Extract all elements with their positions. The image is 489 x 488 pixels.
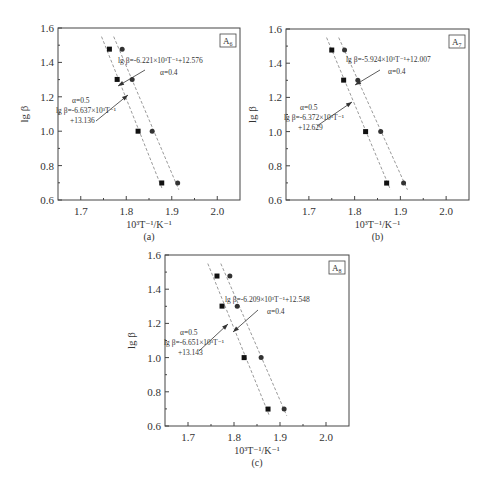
sample-subscript: 8 (339, 268, 342, 274)
data-point-square (220, 304, 225, 309)
annotation-line: α=0.5 (180, 328, 198, 337)
x-axis-label: 10³T⁻¹/K⁻¹ (234, 445, 280, 456)
data-point-circle (401, 181, 406, 186)
y-tick-label: 1.2 (147, 317, 161, 329)
panel-caption: (b) (372, 231, 384, 243)
x-tick-label: 1.8 (227, 431, 241, 443)
y-tick-label: 1.4 (147, 283, 161, 295)
y-tick-label: 1.4 (40, 56, 54, 68)
data-point-circle (342, 48, 347, 53)
y-tick-label: 0.6 (268, 194, 282, 206)
data-point-square (115, 77, 120, 82)
y-tick-label: 1.2 (40, 91, 54, 103)
y-tick-label: 1.6 (40, 22, 54, 34)
y-axis-label: lg β (18, 105, 30, 122)
data-point-square (341, 78, 346, 83)
data-point-circle (150, 129, 155, 134)
annotation-line: +13.143 (178, 348, 203, 357)
data-point-square (107, 47, 112, 52)
x-axis-label: 10³T⁻¹/K⁻¹ (355, 219, 401, 230)
annotation-line: lg β=-6.637×10³T⁻¹ (56, 106, 116, 115)
data-point-circle (282, 407, 287, 412)
sample-subscript: 6 (230, 41, 233, 47)
x-axis-label: 10³T⁻¹/K⁻¹ (126, 219, 172, 230)
y-tick-label: 0.8 (40, 160, 54, 172)
x-tick-label: 1.7 (74, 205, 88, 217)
sample-subscript: 7 (459, 42, 462, 48)
y-tick-label: 0.8 (268, 160, 282, 172)
panel-caption: (a) (143, 231, 154, 243)
data-point-circle (227, 274, 232, 279)
annotation-line: +13.136 (70, 116, 95, 125)
x-tick-label: 2.0 (319, 431, 333, 443)
data-point-square (159, 180, 164, 185)
annotation-line: α=0.4 (267, 307, 285, 316)
annotation-line: lg β=-6.221×10³T⁻¹+12.576 (118, 56, 203, 65)
y-tick-label: 1.0 (268, 126, 282, 138)
data-point-circle (235, 304, 240, 309)
annotation-line: lg β=-6.372×10³T⁻¹ (284, 113, 344, 122)
y-tick-label: 0.6 (40, 194, 54, 206)
data-point-circle (120, 47, 125, 52)
data-point-square (363, 129, 368, 134)
x-tick-label: 1.9 (273, 431, 287, 443)
x-tick-label: 2.0 (210, 205, 224, 217)
x-tick-label: 1.7 (181, 431, 195, 443)
x-tick-label: 1.9 (394, 205, 408, 217)
annotation-line: lg β=-6.651×10³T⁻¹ (164, 338, 224, 347)
annotation-alpha-0-4: lg β=-5.924×10³T⁻¹+12.007α=0.4 (346, 55, 431, 76)
chart-panel-b: 0.60.81.01.21.41.61.71.81.92.010³T⁻¹/K⁻¹… (246, 23, 469, 243)
y-tick-label: 1.6 (147, 249, 161, 261)
y-tick-label: 1.0 (40, 125, 54, 137)
x-tick-label: 1.8 (348, 205, 362, 217)
data-point-circle (378, 129, 383, 134)
annotation-alpha-0-4: lg β=-6.221×10³T⁻¹+12.576α=0.4 (118, 56, 203, 77)
x-tick-label: 1.7 (302, 205, 316, 217)
x-tick-label: 2.0 (439, 205, 453, 217)
series-alpha-0-4 (221, 264, 287, 416)
arrow-head-icon (346, 102, 352, 107)
y-tick-label: 1.6 (268, 23, 282, 35)
annotation-line: lg β=-6.209×10³T⁻¹+12.548 (225, 295, 310, 304)
chart-panel-c: 0.60.81.01.21.41.61.71.81.92.010³T⁻¹/K⁻¹… (125, 249, 349, 469)
x-tick-label: 1.9 (165, 205, 179, 217)
chart-panel-a: 0.60.81.01.21.41.61.71.81.92.010³T⁻¹/K⁻¹… (18, 22, 240, 243)
data-point-square (329, 48, 334, 53)
data-point-square (384, 181, 389, 186)
data-point-circle (175, 180, 180, 185)
annotation-line: α=0.4 (160, 68, 178, 77)
y-tick-label: 1.0 (147, 352, 161, 364)
y-tick-label: 0.8 (147, 386, 161, 398)
y-tick-label: 1.4 (268, 57, 282, 69)
fit-line (221, 264, 287, 416)
panel-caption: (c) (251, 457, 262, 469)
annotation-line: α=0.5 (72, 96, 90, 105)
x-tick-label: 1.8 (119, 205, 133, 217)
data-point-circle (259, 355, 264, 360)
annotation-line: α=0.4 (388, 67, 406, 76)
y-axis-label: lg β (246, 106, 258, 123)
y-tick-label: 1.2 (268, 91, 282, 103)
annotation-alpha-0-5: α=0.5lg β=-6.637×10³T⁻¹+13.136 (56, 96, 116, 125)
data-point-square (266, 407, 271, 412)
y-axis-label: lg β (125, 332, 137, 349)
annotation-line: α=0.5 (300, 103, 318, 112)
figure-canvas: 0.60.81.01.21.41.61.71.81.92.010³T⁻¹/K⁻¹… (0, 0, 489, 488)
data-point-square (214, 274, 219, 279)
annotation-line: lg β=-5.924×10³T⁻¹+12.007 (346, 55, 431, 64)
data-point-square (242, 355, 247, 360)
annotation-alpha-0-5: α=0.5lg β=-6.651×10³T⁻¹+13.143 (164, 328, 224, 357)
y-tick-label: 0.6 (147, 420, 161, 432)
annotation-alpha-0-5: α=0.5lg β=-6.372×10³T⁻¹+12.629 (284, 103, 344, 132)
data-point-square (136, 129, 141, 134)
